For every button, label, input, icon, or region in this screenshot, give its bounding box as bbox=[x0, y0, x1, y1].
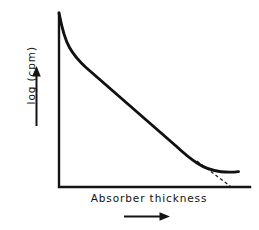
figure-container: log (cpm) Absorber thickness bbox=[0, 0, 259, 230]
y-axis-label: log (cpm) bbox=[26, 32, 37, 118]
axis-frame bbox=[59, 13, 250, 187]
absorption-curve bbox=[59, 13, 239, 172]
arrow-right-icon bbox=[124, 212, 170, 221]
x-axis-label: Absorber thickness bbox=[60, 193, 238, 204]
